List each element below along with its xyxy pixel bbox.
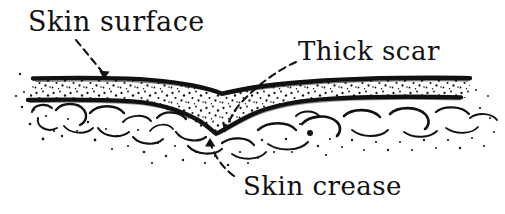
label-skin-crease: Skin crease [243,173,402,199]
label-thick-scar: Thick scar [298,38,440,64]
skin-surface-leader [76,40,110,80]
skin-crease-leader [205,138,234,176]
label-skin-surface: Skin surface [28,8,205,35]
skin-scar-diagram: Skin surface Thick scar Skin crease [0,0,505,214]
